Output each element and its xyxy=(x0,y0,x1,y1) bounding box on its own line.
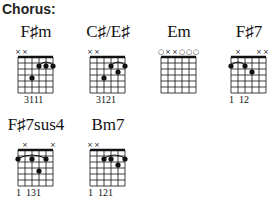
finger-dot xyxy=(43,63,48,68)
muted-string-marker: × xyxy=(22,141,28,149)
muted-string-marker: × xyxy=(15,48,21,56)
chord-name: Bm7 xyxy=(78,115,138,135)
finger-dot xyxy=(122,156,127,161)
fingering-label: 1 131 xyxy=(6,187,76,198)
muted-string-marker: × xyxy=(263,48,269,56)
muted-string-marker: × xyxy=(94,48,100,56)
finger-dot xyxy=(249,69,254,74)
fingering-label: 3121 xyxy=(78,94,156,105)
finger-dot xyxy=(36,63,41,68)
section-heading: Chorus: xyxy=(2,1,56,17)
chord-name: F♯7 xyxy=(219,22,271,42)
muted-string-marker: × xyxy=(256,48,262,56)
finger-dot xyxy=(242,63,247,68)
finger-dot xyxy=(50,63,55,68)
finger-dot xyxy=(108,63,113,68)
finger-dot xyxy=(101,156,106,161)
fretboard-grid: ○××○○○ xyxy=(149,44,209,104)
finger-dot xyxy=(36,168,41,173)
open-string-marker: ○ xyxy=(179,48,185,56)
muted-string-marker: × xyxy=(172,48,178,56)
open-string-marker: ○ xyxy=(186,48,192,56)
finger-dot xyxy=(43,156,48,161)
muted-string-marker: × xyxy=(87,141,93,149)
finger-dot xyxy=(228,63,233,68)
muted-string-marker: × xyxy=(94,141,100,149)
muted-string-marker: × xyxy=(22,48,28,56)
open-string-marker: ○ xyxy=(193,48,199,56)
finger-dot xyxy=(29,156,34,161)
finger-dot xyxy=(122,63,127,68)
chord-name: F♯m xyxy=(6,22,66,42)
fingering-label: 3111 xyxy=(6,94,84,105)
finger-dot xyxy=(115,162,120,167)
chord-name: F♯7sus4 xyxy=(6,115,66,135)
finger-dot xyxy=(108,156,113,161)
chord-name: C♯/E♯ xyxy=(78,22,138,42)
finger-dot xyxy=(15,156,20,161)
finger-dot xyxy=(115,69,120,74)
fingering-label: 1 12 xyxy=(219,94,271,105)
muted-string-marker: × xyxy=(235,48,241,56)
muted-string-marker: × xyxy=(87,48,93,56)
muted-string-marker: × xyxy=(165,48,171,56)
open-string-marker: ○ xyxy=(158,48,164,56)
finger-dot xyxy=(29,75,34,80)
fingering-label: 1 121 xyxy=(78,187,148,198)
finger-dot xyxy=(101,75,106,80)
chord-name: Em xyxy=(149,22,209,42)
muted-string-marker: × xyxy=(50,141,56,149)
